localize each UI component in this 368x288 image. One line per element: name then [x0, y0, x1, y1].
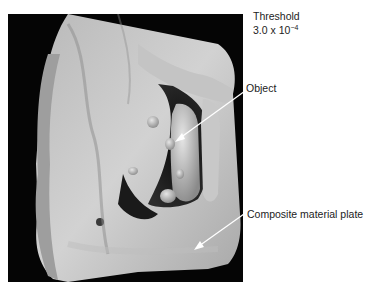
isosurface-render — [8, 14, 243, 282]
plate-annotation: Composite material plate — [247, 208, 363, 220]
object-annotation: Object — [246, 82, 276, 94]
threshold-value: 3.0 x 10−4 — [253, 22, 300, 36]
threshold-label: Threshold 3.0 x 10−4 — [253, 10, 300, 36]
plate-isosurface — [8, 14, 243, 282]
threshold-mantissa: 3.0 x 10 — [253, 24, 290, 36]
threshold-title: Threshold — [253, 10, 300, 22]
threshold-exponent: −4 — [290, 24, 298, 31]
